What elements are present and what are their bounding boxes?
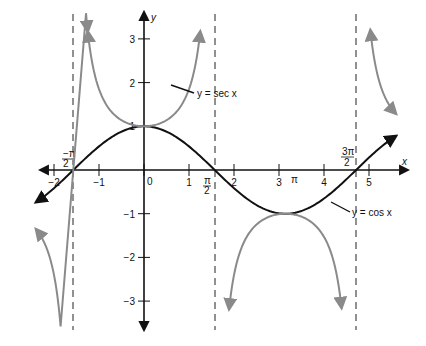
x-axis-label: x: [401, 156, 408, 167]
svg-text:y = sec x: y = sec x: [197, 88, 237, 99]
svg-text:2: 2: [204, 185, 210, 196]
label-half-pi: π 2: [203, 175, 211, 196]
y-tick-label: −3: [124, 296, 136, 307]
svg-text:y = cos x: y = cos x: [352, 207, 392, 218]
trig-graph: −2−1012345 321−1−2−3 y x −π 2 π 2 π 3π 2…: [0, 0, 426, 346]
y-tick-label: −1: [124, 209, 136, 220]
svg-text:2: 2: [344, 157, 350, 168]
svg-text:2: 2: [63, 158, 69, 169]
sec-branch: [229, 214, 341, 310]
cos-annotation: y = cos x: [331, 202, 392, 218]
x-tick-label: 4: [321, 177, 327, 188]
x-tick-label: −2: [48, 177, 60, 188]
sec-branch: [370, 30, 396, 114]
y-axis-label: y: [150, 12, 157, 23]
y-tick-label: −2: [124, 252, 136, 263]
x-tick-label: 0: [147, 176, 153, 187]
svg-text:3π: 3π: [342, 146, 355, 157]
label-three-half-pi: 3π 2: [341, 146, 355, 168]
x-tick-label: 3: [276, 177, 282, 188]
x-tick-label: −1: [93, 177, 105, 188]
y-tick-label: 3: [129, 34, 135, 45]
x-tick-label: 5: [366, 177, 372, 188]
asymptotes: [73, 14, 356, 330]
y-tick-label: 2: [129, 78, 135, 89]
x-tick-label: 1: [186, 177, 192, 188]
sec-annotation: y = sec x: [171, 85, 237, 99]
label-pi: π: [291, 174, 298, 185]
